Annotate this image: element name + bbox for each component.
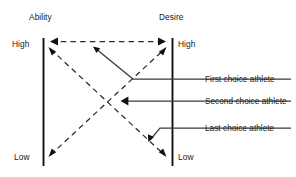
second-choice-label: Second choice athlete — [205, 97, 287, 106]
second-choice-arrow-icon — [121, 97, 129, 106]
desire-high-label: High — [178, 39, 196, 49]
annotation-first-choice: First choice athlete — [93, 47, 291, 85]
ability-high-label: High — [12, 39, 30, 49]
last-choice-label: Last choice athlete — [205, 124, 275, 133]
arrow-ability-high-icon — [49, 47, 57, 56]
high-to-high-dashed-connector — [50, 38, 166, 46]
diagram-page: Ability Desire High Low High Low — [0, 0, 296, 177]
arrow-desire-low-icon — [159, 148, 167, 157]
column-title-desire: Desire — [159, 12, 184, 22]
arrow-desire-high-icon — [159, 47, 167, 56]
column-title-ability: Ability — [29, 12, 52, 22]
annotation-second-choice: Second choice athlete — [121, 97, 292, 106]
ability-low-label: Low — [14, 152, 30, 162]
first-choice-label: First choice athlete — [205, 75, 275, 84]
ability-desire-diagram: Ability Desire High Low High Low — [0, 0, 296, 177]
arrow-left-high-icon — [50, 38, 58, 46]
annotation-last-choice: Last choice athlete — [148, 124, 291, 142]
desire-low-label: Low — [178, 152, 194, 162]
arrow-ability-low-icon — [49, 148, 57, 157]
arrow-right-high-icon — [158, 38, 166, 46]
